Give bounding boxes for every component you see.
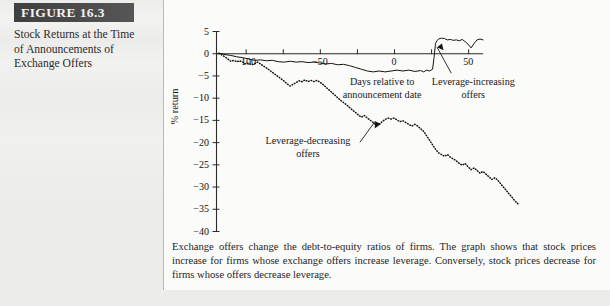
figure-caption-column: FIGURE 16.3 Stock Returns at the Time of… bbox=[0, 0, 163, 292]
svg-text:50: 50 bbox=[463, 56, 473, 67]
svg-text:−20: −20 bbox=[193, 137, 209, 148]
chart-series bbox=[219, 38, 519, 204]
svg-text:announcement date: announcement date bbox=[343, 89, 422, 100]
svg-text:−10: −10 bbox=[193, 92, 209, 103]
chart-axes: 50−5−10−15−20−25−30−35−40−100−50050% ret… bbox=[169, 26, 483, 237]
svg-text:% return: % return bbox=[169, 88, 180, 125]
svg-text:−30: −30 bbox=[193, 181, 209, 192]
svg-text:0: 0 bbox=[392, 56, 397, 67]
svg-text:5: 5 bbox=[204, 26, 209, 37]
figure-page: FIGURE 16.3 Stock Returns at the Time of… bbox=[0, 0, 610, 306]
svg-text:−5: −5 bbox=[198, 70, 209, 81]
figure-number-label: FIGURE 16.3 bbox=[14, 3, 134, 21]
figure-body-caption: Exchange offers change the debt-to-equit… bbox=[172, 240, 596, 282]
svg-text:−15: −15 bbox=[193, 114, 209, 125]
svg-text:Leverage-increasing: Leverage-increasing bbox=[432, 76, 515, 87]
svg-text:−40: −40 bbox=[193, 226, 209, 237]
stock-returns-line-chart: 50−5−10−15−20−25−30−35−40−100−50050% ret… bbox=[164, 0, 610, 250]
svg-text:−25: −25 bbox=[193, 159, 209, 170]
svg-text:−35: −35 bbox=[193, 203, 209, 214]
svg-text:Leverage-decreasing: Leverage-decreasing bbox=[266, 135, 351, 146]
figure-title: Stock Returns at the Time of Announcemen… bbox=[14, 28, 146, 72]
svg-text:0: 0 bbox=[204, 48, 209, 59]
svg-text:offers: offers bbox=[296, 148, 320, 159]
svg-text:offers: offers bbox=[461, 89, 485, 100]
svg-text:Days relative to: Days relative to bbox=[350, 76, 415, 87]
figure-number-banner: FIGURE 16.3 bbox=[14, 3, 134, 22]
chart-annotations: Days relative toannouncement dateLeverag… bbox=[266, 43, 515, 159]
series-solid bbox=[219, 38, 483, 72]
